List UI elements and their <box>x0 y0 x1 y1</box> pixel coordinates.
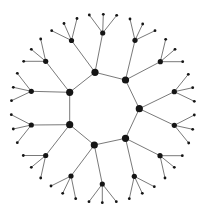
ring-edge <box>70 125 95 145</box>
leaf-node <box>76 17 79 20</box>
inner-ring-node <box>66 121 73 128</box>
ring-edge <box>94 138 125 145</box>
leaf-edge <box>11 115 31 125</box>
middle-node <box>68 173 73 178</box>
leaf-node <box>181 60 184 63</box>
leaf-node <box>164 38 167 41</box>
leaf-edge <box>174 115 194 125</box>
leaf-edge <box>174 92 194 102</box>
leaf-node <box>88 200 91 203</box>
leaf-node <box>88 14 91 17</box>
leaf-edge <box>135 31 155 41</box>
leaf-edge <box>51 176 71 186</box>
leaf-edge <box>134 176 154 186</box>
middle-node <box>43 153 48 158</box>
nodes-layer <box>10 13 196 204</box>
leaf-node <box>50 185 53 188</box>
leaf-node <box>10 113 13 116</box>
leaf-node <box>193 100 196 103</box>
ring-edge <box>126 80 140 109</box>
leaf-node <box>193 114 196 117</box>
leaf-node <box>102 13 105 16</box>
leaf-node <box>174 48 177 51</box>
leaf-edge <box>103 15 117 33</box>
leaf-node <box>16 72 19 75</box>
leaf-edge <box>12 91 32 100</box>
leaf-node <box>30 166 33 169</box>
leaf-node <box>129 18 132 21</box>
leaf-edge <box>89 184 102 202</box>
leaf-edge <box>72 19 78 41</box>
leaf-node <box>154 29 157 32</box>
branch-edge <box>95 33 103 72</box>
leaf-edge <box>102 184 116 202</box>
leaf-edge <box>71 176 76 199</box>
leaf-node <box>128 197 131 200</box>
leaf-node <box>115 14 118 17</box>
leaf-node <box>101 201 104 204</box>
leaf-node <box>141 23 144 26</box>
leaf-node <box>74 197 77 200</box>
leaf-node <box>30 48 33 51</box>
branch-edge <box>126 62 161 80</box>
branch-edge <box>94 145 102 184</box>
leaf-node <box>16 141 19 144</box>
middle-node <box>29 122 34 127</box>
ring-edge <box>126 109 140 139</box>
leaf-node <box>187 73 190 76</box>
inner-ring-node <box>122 135 129 142</box>
branch-edge <box>72 41 96 73</box>
inner-ring-node <box>66 89 73 96</box>
middle-node <box>100 181 105 186</box>
middle-node <box>43 59 48 64</box>
leaf-node <box>12 86 15 89</box>
ring-edge <box>70 72 95 92</box>
leaf-node <box>173 166 176 169</box>
inner-ring-node <box>91 141 98 148</box>
leaf-node <box>50 29 53 32</box>
middle-node <box>132 38 137 43</box>
leaf-node <box>61 192 64 195</box>
middle-node <box>157 153 162 158</box>
leaf-node <box>22 154 25 157</box>
leaf-node <box>39 177 42 180</box>
leaf-edge <box>135 24 143 40</box>
branch-edge <box>139 92 174 109</box>
leaf-edge <box>129 176 134 198</box>
branch-edge <box>126 40 136 80</box>
branch-edge <box>46 61 70 92</box>
leaf-node <box>153 185 156 188</box>
branch-edge <box>31 91 69 92</box>
leaf-edge <box>130 19 135 40</box>
leaf-node <box>39 38 42 41</box>
middle-node <box>29 89 34 94</box>
leaf-node <box>187 142 190 145</box>
inner-ring-node <box>122 76 129 83</box>
middle-node <box>132 174 137 179</box>
branch-edge <box>126 138 161 155</box>
leaf-edge <box>63 176 71 193</box>
middle-node <box>172 123 177 128</box>
middle-node <box>100 30 105 35</box>
leaf-edge <box>64 24 72 41</box>
leaf-node <box>10 99 13 102</box>
leaf-node <box>164 177 167 180</box>
leaf-edge <box>103 14 104 33</box>
leaf-node <box>22 60 25 63</box>
leaf-edge <box>52 31 72 41</box>
tree-graph-diagram <box>0 0 205 211</box>
inner-ring-node <box>91 69 98 76</box>
inner-ring-node <box>136 105 143 112</box>
leaf-node <box>115 200 118 203</box>
leaf-node <box>12 128 15 131</box>
edges-layer <box>11 14 194 202</box>
branch-edge <box>46 125 70 156</box>
leaf-node <box>191 128 194 131</box>
middle-node <box>69 38 74 43</box>
branch-edge <box>71 145 94 176</box>
leaf-node <box>181 154 184 157</box>
middle-node <box>172 89 177 94</box>
leaf-node <box>141 192 144 195</box>
middle-node <box>158 59 163 64</box>
branch-edge <box>139 109 174 126</box>
